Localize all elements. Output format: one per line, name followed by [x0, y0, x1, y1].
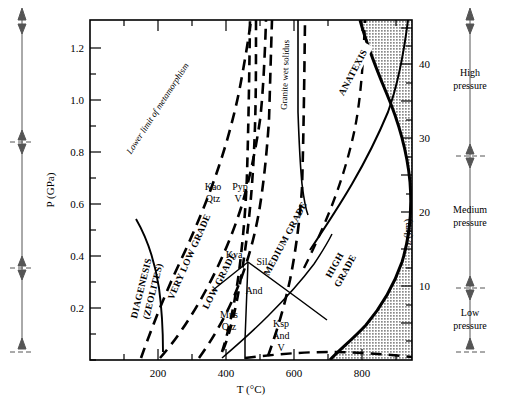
x-tick-label: 400 [218, 367, 235, 379]
figure-root: 200 400 600 800 T (°C) 0.2 0.4 0.6 0.8 1… [0, 0, 519, 396]
kya-label: Kya [226, 249, 243, 260]
label-high-grade: HIGH GRADE [314, 238, 364, 296]
high-pressure-line2: pressure [453, 80, 487, 91]
curve-andalusite-kyanite [245, 262, 248, 359]
z-tick-label: 20 [419, 206, 431, 218]
y-left-ticks [90, 48, 101, 360]
y-tick-label: 1.0 [70, 94, 84, 106]
kao-line2: Qtz [206, 193, 221, 204]
ksp-line2: And [272, 330, 289, 341]
y-tick-label: 1.2 [70, 42, 84, 54]
x-tick-label: 800 [354, 367, 371, 379]
kao-line1: Kao [205, 181, 222, 192]
label-very-low-grade: VERY LOW GRADE [166, 212, 213, 301]
z-tick-label: 30 [419, 132, 431, 144]
label-diagenesis: DIAGENESIS (ZEOLITES) [129, 257, 166, 322]
mus-line1: Mus [220, 309, 238, 320]
ksp-line1: Ksp [273, 318, 289, 329]
sil-label: Sil [256, 256, 267, 267]
z-tick-label: 40 [419, 58, 431, 70]
ksp-line3: V [277, 342, 285, 353]
y-tick-label: 0.4 [70, 250, 84, 262]
mus-line2: Qtz [222, 321, 237, 332]
low-pressure-line2: pressure [453, 320, 487, 331]
x-axis-label: T (°C) [237, 383, 266, 396]
pt-diagram-svg: 200 400 600 800 T (°C) 0.2 0.4 0.6 0.8 1… [0, 0, 519, 396]
z-tick-label: 10 [419, 280, 431, 292]
and-label: And [245, 285, 262, 296]
anatexis-text: ANATEXIS [337, 48, 370, 98]
label-medium-grade: MEDIUM GRADE [262, 200, 309, 277]
x-tick-label: 200 [150, 367, 167, 379]
pyp-line1: Pyp [232, 181, 248, 192]
y-axis-label: P (GPa) [44, 172, 57, 207]
medium-pressure-line1: Medium [453, 204, 487, 215]
y-tick-label: 0.2 [70, 302, 84, 314]
y-right-tick-labels: 10 20 30 40 [419, 58, 431, 292]
x-axis-tick-labels: 200 400 600 800 [150, 367, 371, 379]
z-axis-label: z (km) [402, 219, 414, 245]
low-pressure-line1: Low [461, 307, 480, 318]
y-tick-label: 0.8 [70, 146, 84, 158]
label-lower-limit-of-metamorphism: Lower limit of metamorphism [124, 60, 191, 156]
left-pressure-scale-bar [10, 8, 34, 352]
high-pressure-line1: High [460, 67, 480, 78]
label-anatexis: ANATEXIS [331, 40, 373, 103]
y-tick-label: 0.6 [70, 198, 84, 210]
pyp-line2: V [234, 193, 242, 204]
x-tick-label: 600 [286, 367, 303, 379]
y-left-tick-labels: 0.2 0.4 0.6 0.8 1.0 1.2 [70, 42, 84, 314]
label-granite-wet-solidus: Granite wet solidus [279, 39, 291, 110]
pressure-regime-scale-bar [456, 8, 486, 352]
medium-pressure-line2: pressure [453, 217, 487, 228]
